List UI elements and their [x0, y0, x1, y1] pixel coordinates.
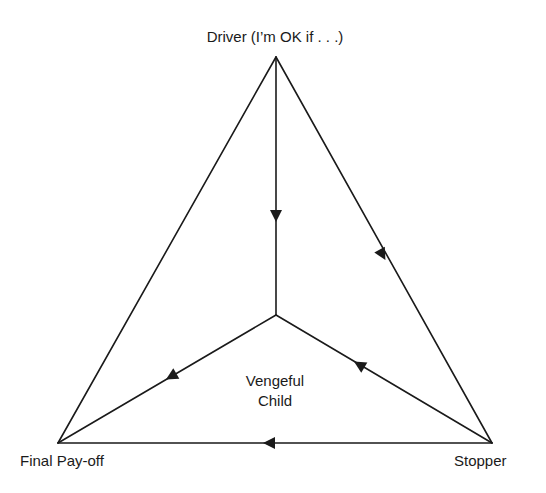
node-label-vengeful-child-line1: Vengeful — [220, 371, 330, 391]
node-label-vengeful-child-line2: Child — [220, 391, 330, 411]
node-label-final-payoff: Final Pay-off — [20, 452, 104, 470]
node-label-vengeful-child: Vengeful Child — [220, 371, 330, 411]
arrow-down-icon — [270, 210, 282, 222]
arrow-down-left-icon — [163, 368, 179, 384]
node-label-stopper: Stopper — [454, 452, 507, 470]
node-label-driver: Driver (I’m OK if . . .) — [200, 28, 350, 46]
arrow-left-icon — [263, 437, 275, 449]
diagram-canvas: Driver (I’m OK if . . .) Final Pay-off S… — [0, 0, 546, 493]
triangle-diagram — [0, 0, 546, 493]
arrow-down-right-icon — [374, 247, 390, 263]
arrow-up-left-icon — [351, 356, 367, 372]
